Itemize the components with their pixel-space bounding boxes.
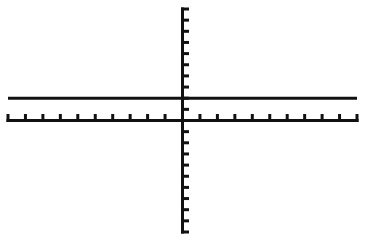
graph-screen: y=2	[0, 0, 365, 245]
graph-plot-area	[0, 0, 365, 245]
